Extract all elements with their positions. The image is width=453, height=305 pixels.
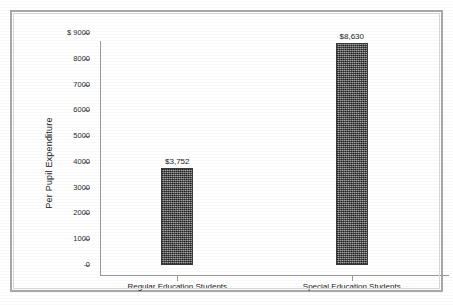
y-axis-tick-label: 6000 (16, 106, 90, 114)
bar (161, 168, 193, 265)
y-axis-tick-label-wrap: 1000 (12, 235, 90, 243)
y-axis-tick-label: 3000 (16, 184, 90, 192)
y-axis-tick-label: $ 9000 (16, 29, 90, 37)
y-axis-tick-label: 8000 (16, 55, 90, 63)
y-axis-tick-label-wrap: 2000 (12, 209, 90, 217)
y-axis-tick-label-wrap: 6000 (12, 106, 90, 114)
y-axis-tick-label-wrap: 8000 (12, 55, 90, 63)
bar-value-label: $8,630 (322, 32, 382, 41)
y-axis-tick-label-wrap: $ 9000 (12, 29, 90, 37)
y-axis-tick-label: 2000 (16, 209, 90, 217)
y-axis-tick-label: 5000 (16, 132, 90, 140)
bar-value-label: $3,752 (147, 157, 207, 166)
bar (336, 43, 368, 265)
bar-chart-figure: Per Pupil Expenditure $ 9000800070006000… (0, 0, 453, 305)
x-axis-category-label: Regular Education Students (92, 282, 262, 291)
y-axis-tick-label-wrap: 4000 (12, 158, 90, 166)
y-axis-tick-label: 7000 (16, 81, 90, 89)
y-axis-tick-label-wrap: 5000 (12, 132, 90, 140)
y-axis-tick-label-wrap: 7000 (12, 81, 90, 89)
y-axis-tick-label: 4000 (16, 158, 90, 166)
y-axis-tick-label-wrap: 0 (12, 261, 90, 269)
x-axis-tick (352, 276, 353, 281)
y-axis-tick-label: 0 (16, 261, 90, 269)
y-axis-tick-label-wrap: 3000 (12, 184, 90, 192)
x-axis-tick (177, 276, 178, 281)
y-axis-tick-label: 1000 (16, 235, 90, 243)
chart-frame-border: Per Pupil Expenditure $ 9000800070006000… (10, 10, 443, 292)
y-axis-line (100, 41, 101, 276)
x-axis-line (100, 275, 449, 276)
x-axis-category-label: Special Education Students (267, 282, 437, 291)
